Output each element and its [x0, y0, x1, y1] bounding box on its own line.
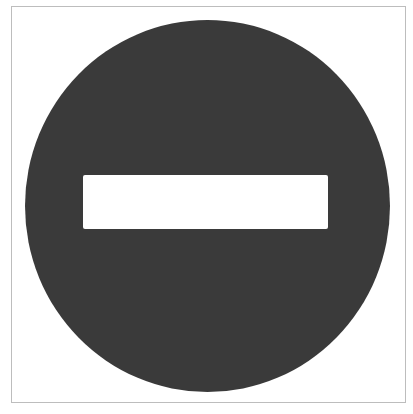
- sign-horizontal-bar: [83, 175, 328, 229]
